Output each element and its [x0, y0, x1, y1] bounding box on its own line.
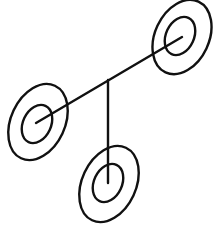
- upper-right-outer-ellipse: [141, 0, 217, 84]
- diagram-canvas: [0, 0, 217, 227]
- left-inner-ellipse: [16, 100, 58, 148]
- connector-lines: [36, 37, 182, 183]
- upper-right-inner-ellipse: [159, 12, 201, 60]
- node-upper-right: [141, 0, 217, 84]
